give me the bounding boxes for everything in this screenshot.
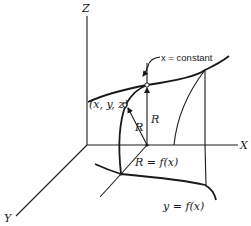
radius-vertical-label: R — [150, 113, 159, 126]
x-axis-label: X — [239, 139, 249, 152]
y-direction-line — [100, 174, 121, 197]
z-axis-label: Z — [81, 2, 90, 15]
right-surface-arc — [174, 70, 205, 145]
right-projection-line — [205, 145, 206, 185]
curve-y-f-x-label: y = f(x) — [162, 200, 204, 213]
point-top — [145, 83, 149, 87]
y-axis-label: Y — [4, 212, 13, 225]
point-center — [145, 143, 148, 146]
surface-of-revolution-diagram: Z X Y x = constant (x, y, z) R R R = f(x… — [0, 0, 251, 226]
x-constant-leader — [143, 57, 160, 76]
point-xyz-label: (x, y, z) — [89, 98, 128, 111]
radius-f-x-label: R = f(x) — [134, 156, 178, 169]
x-constant-label: x = constant — [161, 52, 213, 63]
y-axis — [16, 145, 87, 216]
point-bottom — [119, 172, 122, 175]
radius-point-label: R — [134, 121, 143, 134]
